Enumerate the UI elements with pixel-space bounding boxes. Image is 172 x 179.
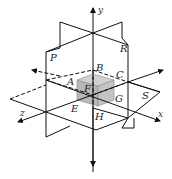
plane-p-label: P [49,52,57,63]
point-e-label: E [70,103,79,114]
point-a-label: A [66,76,74,87]
x-axis-back [128,70,163,82]
point-f-label: F [83,83,92,94]
point-c-label: C [116,69,124,80]
point-h-label: H [94,111,104,122]
z-axis [18,82,128,122]
plane-s-label: S [142,90,149,101]
plane-r-label: R [119,43,128,54]
point-b-label: B [95,62,103,73]
cube [77,74,114,106]
x-axis-label: x [158,109,163,119]
z-axis-label: z [19,108,25,118]
point-g-label: G [115,93,123,104]
coordinate-planes-diagram: y x z P R S A B C E F G H [0,0,172,179]
y-axis-label: y [97,5,104,15]
